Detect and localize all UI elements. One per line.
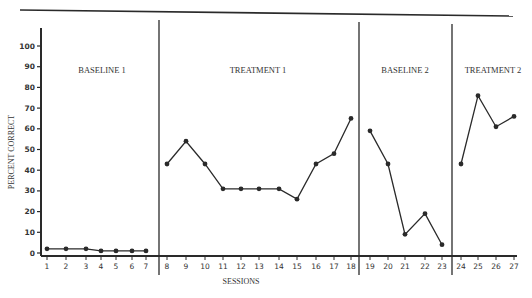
phase-label: TREATMENT 1 — [230, 65, 287, 75]
data-point — [184, 139, 189, 144]
x-tick-label: 16 — [311, 262, 321, 271]
y-tick-label: 90 — [25, 62, 35, 71]
x-tick-label: 18 — [346, 262, 356, 271]
data-point — [45, 246, 50, 251]
data-point — [332, 151, 337, 156]
phase-label: BASELINE 1 — [78, 65, 125, 75]
data-point — [221, 186, 226, 191]
data-point — [114, 249, 119, 254]
data-point — [84, 246, 89, 251]
x-tick-label: 26 — [491, 262, 501, 271]
x-tick-label: 23 — [437, 262, 447, 271]
data-point — [349, 116, 354, 121]
data-point — [130, 249, 135, 254]
data-point — [165, 162, 170, 167]
x-tick-label: 5 — [114, 262, 119, 271]
data-point — [239, 186, 244, 191]
x-tick-label: 2 — [64, 262, 69, 271]
x-axis-ticks: 1234567891011121314151617181920212223242… — [45, 256, 519, 271]
top-rule — [20, 10, 513, 16]
data-series — [45, 93, 517, 253]
x-tick-label: 15 — [292, 262, 302, 271]
data-point — [476, 93, 481, 98]
x-tick-label: 9 — [184, 262, 189, 271]
y-tick-label: 0 — [30, 249, 35, 258]
x-tick-label: 22 — [420, 262, 430, 271]
y-axis-label: PERCENT CORRECT — [7, 115, 16, 189]
x-tick-label: 24 — [456, 262, 466, 271]
data-point — [295, 197, 300, 202]
data-point — [459, 162, 464, 167]
data-point — [494, 124, 499, 129]
x-tick-label: 19 — [365, 262, 375, 271]
y-axis-ticks: 0102030405060708090100 — [19, 42, 41, 258]
x-tick-label: 4 — [99, 262, 104, 271]
phase-labels: BASELINE 1TREATMENT 1BASELINE 2TREATMENT… — [78, 65, 521, 75]
y-tick-label: 20 — [25, 207, 35, 216]
x-tick-label: 12 — [236, 262, 246, 271]
data-point — [423, 211, 428, 216]
data-point — [440, 242, 445, 247]
x-tick-label: 25 — [473, 262, 483, 271]
data-point — [512, 114, 517, 119]
phase-label: BASELINE 2 — [381, 65, 428, 75]
y-tick-label: 60 — [25, 124, 35, 133]
single-case-design-chart: 0102030405060708090100 12345678910111213… — [0, 0, 532, 298]
data-point — [257, 186, 262, 191]
x-tick-label: 1 — [45, 262, 50, 271]
x-tick-label: 14 — [274, 262, 284, 271]
x-tick-label: 20 — [383, 262, 393, 271]
data-point — [277, 186, 282, 191]
x-tick-label: 27 — [509, 262, 519, 271]
x-tick-label: 7 — [144, 262, 149, 271]
x-axis-label: SESSIONS — [223, 277, 260, 286]
data-point — [403, 232, 408, 237]
data-point — [386, 162, 391, 167]
x-tick-label: 11 — [218, 262, 228, 271]
y-tick-label: 100 — [19, 42, 35, 51]
data-point — [203, 162, 208, 167]
phase-line-series — [461, 96, 514, 164]
data-point — [64, 246, 69, 251]
phase-change-lines — [159, 20, 452, 275]
y-tick-label: 70 — [25, 104, 35, 113]
phase-line-series — [370, 131, 442, 245]
phase-label: TREATMENT 2 — [465, 65, 522, 75]
y-tick-label: 10 — [25, 228, 35, 237]
x-tick-label: 3 — [84, 262, 89, 271]
y-tick-label: 50 — [25, 145, 35, 154]
x-tick-label: 8 — [165, 262, 170, 271]
y-tick-label: 80 — [25, 83, 35, 92]
x-tick-label: 13 — [254, 262, 264, 271]
data-point — [314, 162, 319, 167]
y-tick-label: 40 — [25, 166, 35, 175]
x-tick-label: 17 — [329, 262, 339, 271]
data-point — [99, 249, 104, 254]
x-tick-label: 10 — [200, 262, 210, 271]
x-tick-label: 6 — [130, 262, 135, 271]
data-point — [368, 128, 373, 133]
x-tick-label: 21 — [400, 262, 410, 271]
y-tick-label: 30 — [25, 186, 35, 195]
data-point — [144, 249, 149, 254]
